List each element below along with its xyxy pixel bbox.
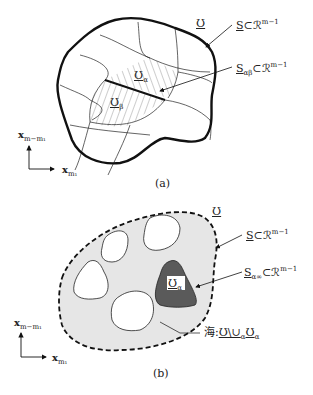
sea-label-expr: Ʊ\∪ — [219, 326, 241, 339]
sea-label-sub2: α — [255, 333, 260, 341]
boundary-label-b-subset: ⊂ — [254, 229, 263, 242]
island-label-b-main: S — [244, 266, 252, 279]
region-beta-sub: β — [119, 103, 123, 111]
island-region-sub: α — [177, 284, 182, 292]
axis-y-b-sub: m−m₁ — [20, 323, 42, 331]
axis-x-label-a: xm₁ — [62, 165, 77, 178]
island-region-label: Ʊα — [168, 278, 182, 292]
sea-label: 海:Ʊ\∪αƱα — [204, 327, 259, 341]
sea-label-prefix: 海: — [204, 326, 219, 339]
axis-x-b-sub: m₁ — [58, 358, 67, 366]
interface-label-a-subset: ⊂ — [252, 62, 261, 75]
island-region-main: Ʊ — [168, 277, 177, 290]
boundary-label-a: S⊂ℛm−1 — [236, 19, 279, 31]
interface-label-a: Sαβ⊂ℛm−1 — [236, 62, 288, 77]
region-beta-main: Ʊ — [110, 96, 119, 109]
domain-label-b: Ʊ — [212, 206, 221, 217]
axis-y-label-b: xm−m₁ — [14, 318, 42, 331]
axis-y-a-sub: m−m₁ — [24, 135, 46, 143]
island-label-b-sub: α∞ — [252, 273, 263, 281]
interface-label-a-main: S — [236, 62, 244, 75]
region-beta-label: Ʊβ — [110, 97, 123, 111]
island-label-b-space: ℛ — [271, 266, 280, 279]
axis-x-a-sub: m₁ — [68, 170, 77, 178]
boundary-label-b-exp: m−1 — [272, 228, 289, 236]
boundary-label-a-subset: ⊂ — [244, 19, 253, 32]
caption-b: (b) — [153, 368, 169, 379]
boundary-label-a-main: S — [236, 19, 244, 32]
interface-label-a-exp: m−1 — [271, 61, 288, 69]
island-label-b-exp: m−1 — [280, 265, 297, 273]
interface-label-a-space: ℛ — [262, 62, 271, 75]
panel-a — [29, 18, 232, 175]
leader-boundary-b — [216, 235, 242, 248]
island-label-b-subset: ⊂ — [262, 266, 271, 279]
boundary-label-b: S⊂ℛm−1 — [246, 229, 289, 241]
boundary-label-a-exp: m−1 — [262, 18, 279, 26]
leader-boundary-a — [206, 25, 232, 47]
axis-y-label-a: xm−m₁ — [18, 130, 46, 143]
island-boundary-label-b: Sα∞⊂ℛm−1 — [244, 266, 297, 281]
region-alpha-sub: α — [143, 76, 148, 84]
boundary-label-a-space: ℛ — [253, 19, 262, 32]
boundary-label-b-main: S — [246, 229, 254, 242]
boundary-label-b-space: ℛ — [263, 229, 272, 242]
caption-a: (a) — [155, 178, 170, 189]
domain-label-a: Ʊ — [196, 18, 205, 29]
region-alpha-label: Ʊα — [134, 70, 148, 84]
sea-label-expr2: Ʊ — [246, 326, 255, 339]
interface-label-a-sub: αβ — [244, 69, 253, 77]
axis-x-label-b: xm₁ — [52, 353, 67, 366]
region-alpha-main: Ʊ — [134, 69, 143, 82]
diagram-canvas — [0, 0, 313, 395]
